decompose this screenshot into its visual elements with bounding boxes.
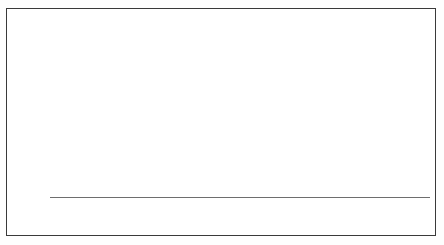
x-axis-labels <box>40 203 440 237</box>
chart-figure <box>0 0 444 245</box>
plot-area <box>50 29 430 197</box>
x-axis-ticks <box>50 197 430 201</box>
stacked-area-svg <box>50 29 430 197</box>
